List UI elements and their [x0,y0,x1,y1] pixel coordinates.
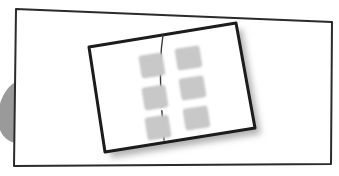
photo-left-2 [141,84,168,110]
photo-right-2 [178,75,206,101]
illustration-canvas: Open photo album sketch hand-drawn line … [0,0,339,176]
open-book-outline [89,23,255,152]
photo-right-1 [174,45,202,71]
sketch-illustration [0,0,339,176]
photo-left-3 [144,114,171,140]
photo-right-3 [182,105,210,131]
photo-left-1 [138,52,165,78]
